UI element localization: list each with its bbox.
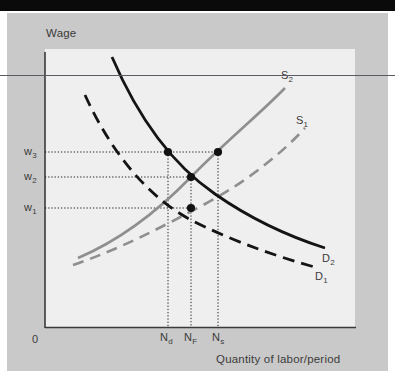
figure-stage: Wage Quantity of labor/period 0 w3 w2 w1… <box>0 0 395 375</box>
demand-1-label: D1 <box>315 270 328 285</box>
y-tick-w1: w1 <box>24 201 37 216</box>
scan-artifact-line <box>0 75 395 76</box>
curve-demand-1 <box>85 95 318 268</box>
point-d2-w3-nd <box>164 148 172 156</box>
y-tick-w2: w2 <box>24 170 37 185</box>
demand-2-label: D2 <box>322 252 335 267</box>
chart-svg <box>0 0 395 375</box>
x-tick-nd: Nd <box>160 331 173 346</box>
supply-2-label: S2 <box>281 69 293 84</box>
y-axis-title: Wage <box>46 27 76 39</box>
point-equilibrium-w2-nf <box>187 173 195 181</box>
origin-label: 0 <box>32 333 38 345</box>
x-axis-title: Quantity of labor/period <box>216 353 340 365</box>
x-tick-nf: NF <box>184 331 197 346</box>
x-tick-ns: Ns <box>212 331 224 346</box>
y-tick-w3: w3 <box>24 145 37 160</box>
point-w1-nf <box>187 204 195 212</box>
supply-1-label: S1 <box>296 114 308 129</box>
point-s2-w3-ns <box>214 148 222 156</box>
